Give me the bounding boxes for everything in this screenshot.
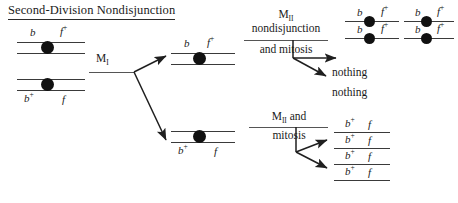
diagram-canvas: Second-Division Nondisjunction b f+ b+ f… [0,0,458,203]
meiosis-2-and-label: MII and [272,110,307,123]
product-b2-allele-b: b [415,24,421,35]
product-a1-centromere-icon [364,16,375,27]
diagram-title: Second-Division Nondisjunction [8,3,175,20]
parent-top-allele-b: b [30,27,36,38]
product-b1-allele-b: b [415,7,421,18]
product-a2-allele-b: b [357,24,363,35]
product-a2-centromere-icon [364,33,375,44]
m1-upper-allele-b: b [184,38,190,49]
product-c4-allele-f: f [368,167,371,178]
product-b1-centromere-icon [421,16,432,27]
product-c4-allele-b-plus: b+ [345,166,355,177]
parent-top-chromatid-2 [17,53,85,54]
parent-top-allele-f-plus: f+ [60,26,67,37]
product-b1-allele-f-plus: f+ [437,6,444,17]
product-c2-chromatid [334,148,390,149]
arrow-overlay [0,0,458,203]
outcome-nothing-1: nothing [332,66,367,79]
product-c2-allele-f: f [368,135,371,146]
m1-lower-chromatid-2 [171,142,235,143]
meiosis-1-label: MI [96,52,109,65]
parent-bottom-allele-b-plus: b+ [24,93,34,104]
m1-lower-centromere-icon [193,130,206,143]
product-c1-allele-b-plus: b+ [345,118,355,129]
nondisjunction-label: nondisjunction [252,22,320,35]
product-a1-allele-f-plus: f+ [381,6,388,17]
product-c2-allele-b-plus: b+ [345,134,355,145]
m1-upper-centromere-icon [193,52,206,65]
parent-bottom-allele-f: f [62,94,65,105]
meiosis-2-nondisjunction-label: MII [278,8,293,21]
m1-lower-allele-b-plus: b+ [178,145,188,156]
arrow-lower-to-products-lower [296,152,327,168]
lower-branch-underline [249,127,328,128]
product-c3-allele-b-plus: b+ [345,150,355,161]
arrow-upper-to-nothing [293,58,326,76]
parent-top-centromere-icon [41,41,54,54]
m1-lower-allele-f: f [214,146,217,157]
parent-bottom-chromatid-2 [17,90,85,91]
product-c1-allele-f: f [368,119,371,130]
product-b2-centromere-icon [421,33,432,44]
arrow-m1-to-upper [134,56,166,72]
product-b2-allele-f-plus: f+ [437,23,444,34]
arrow-m1-to-lower [134,72,166,140]
mitosis-label: mitosis [272,129,305,142]
m1-upper-allele-f-plus: f+ [207,37,214,48]
product-a1-allele-b: b [357,7,363,18]
m1-upper-chromatid-2 [171,64,235,65]
outcome-nothing-2: nothing [332,86,367,99]
parent-bottom-centromere-icon [41,78,54,91]
product-c3-chromatid [334,164,390,165]
product-c3-allele-f: f [368,151,371,162]
product-c1-chromatid [334,132,390,133]
product-c4-chromatid [334,180,390,181]
and-mitosis-label: and mitosis [260,43,313,56]
upper-branch-underline [244,40,328,41]
meiosis-1-underline [89,72,134,73]
product-a2-allele-f-plus: f+ [381,23,388,34]
